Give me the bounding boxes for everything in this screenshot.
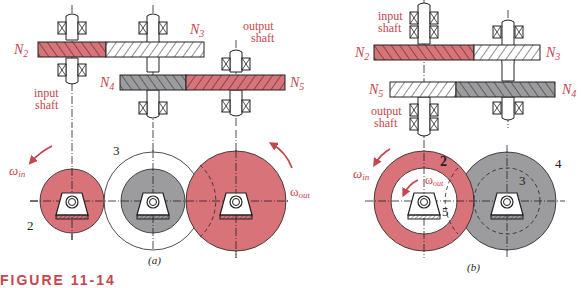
label-gear-3-b: 3: [519, 173, 526, 188]
omega-out-arrow-icon: [272, 144, 292, 168]
label-n5-b: N5: [368, 82, 383, 99]
label-gear-4-b: 4: [555, 156, 562, 171]
bearing-pedestal-icon: [220, 193, 252, 219]
label-omega-in: ωin: [9, 163, 26, 179]
bearing-pedestal-icon: [137, 193, 169, 219]
panel-b-section: N2 N3 N5 N4 input shaft output shaft: [354, 0, 576, 138]
label-input-shaft-b-2: shaft: [378, 21, 402, 35]
label-n5: N5: [289, 75, 304, 92]
label-gear-5-b: 5: [442, 204, 449, 219]
bearing-pedestal-icon: [491, 193, 523, 219]
label-n2: N2: [13, 42, 28, 59]
label-omega-in-b: ωin: [353, 166, 370, 182]
label-n4: N4: [99, 75, 114, 92]
gear-train-figure: N2 N3 N4 N5 input shaft output shaft: [0, 0, 581, 288]
label-gear-3: 3: [113, 143, 120, 158]
omega-in-arrow-icon: [375, 149, 390, 164]
label-gear-2: 2: [27, 218, 34, 233]
label-n4-b: N4: [561, 82, 576, 99]
label-gear-2-b: 2: [440, 154, 447, 169]
figure-caption: FIGURE 11-14: [0, 272, 116, 288]
label-output-shaft-2: shaft: [251, 31, 275, 45]
sublabel-b: (b): [467, 261, 480, 274]
omega-in-arrow-icon: [31, 146, 52, 162]
label-input-shaft-2: shaft: [35, 98, 59, 112]
panel-b-endview: ωin ωout 2 3 4 5 (b): [353, 140, 565, 274]
label-n3: N3: [189, 22, 204, 39]
label-output-shaft-b-2: shaft: [374, 116, 398, 130]
bearing-pedestal-icon: [408, 193, 440, 219]
label-omega-out: ωout: [290, 184, 311, 200]
label-n2-b: N2: [354, 45, 369, 62]
panel-a-endview: ωin ωout 2 3 (a): [9, 130, 311, 267]
sublabel-a: (a): [148, 254, 161, 267]
panel-a-section: N2 N3 N4 N5 input shaft output shaft: [13, 5, 304, 128]
bearing-pedestal-icon: [56, 193, 88, 219]
label-n3-b: N3: [545, 45, 560, 62]
